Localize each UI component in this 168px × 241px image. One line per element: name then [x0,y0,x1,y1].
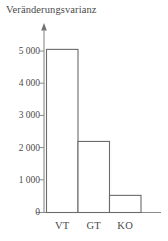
y-tick-label-4000-wrap: 4 000 [0,78,40,88]
bar-vt[interactable] [47,49,79,212]
y-tick-label-0: 0 [2,207,40,217]
y-tick-label-2000: 2 000 [2,143,40,153]
bar-chart-figure: Veränderungsvarianz 5 000 [0,0,168,241]
y-tick-label-1000-wrap: 1 000 [0,175,40,185]
y-tick-label-3000: 3 000 [2,110,40,120]
bar-gt[interactable] [78,141,110,212]
x-tick-label-vt: VT [46,220,78,232]
y-tick-label-4000: 4 000 [2,78,40,88]
y-tick-label-0-wrap: 0 [0,207,40,217]
y-tick-label-3000-wrap: 3 000 [0,110,40,120]
x-tick-label-gt: GT [78,220,110,232]
y-tick-label-5000: 5 000 [2,46,40,56]
bar-ko[interactable] [110,195,142,212]
plot-area: 5 000 4 000 3 000 2 000 1 000 0 VT GT KO [0,0,168,241]
y-tick-label-5000-wrap: 5 000 [0,46,40,56]
chart-canvas [0,0,168,241]
y-tick-label-1000: 1 000 [2,175,40,185]
x-tick-label-ko: KO [109,220,141,232]
y-tick-label-2000-wrap: 2 000 [0,143,40,153]
